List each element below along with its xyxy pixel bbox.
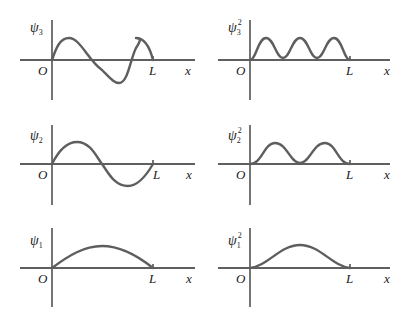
x-label: x <box>185 271 192 286</box>
psi2-squared-label: ψ22 <box>228 126 242 145</box>
l-label: L <box>345 167 353 182</box>
psi1-squared-label: ψ12 <box>228 231 242 250</box>
x-label: x <box>383 167 390 182</box>
origin-label: O <box>236 167 246 182</box>
psi3-squared-curve <box>250 38 350 60</box>
psi2-squared-curve <box>250 143 350 164</box>
panel-psi2-squared: ψ22 O L x <box>218 125 390 205</box>
psi3-label: ψ3 <box>30 20 43 37</box>
panel-psi3-squared: ψ32 O L x <box>218 18 390 100</box>
origin-label: O <box>236 271 246 286</box>
wavefunction-diagram: ψ3 O L x ψ32 O L x ψ2 O L x ψ22 O L x <box>0 0 411 326</box>
x-label: x <box>184 63 191 78</box>
l-label: L <box>148 63 156 78</box>
x-label: x <box>383 271 390 286</box>
psi2-label: ψ2 <box>30 128 43 145</box>
psi1-squared-curve <box>250 245 350 268</box>
psi3-squared-label: ψ32 <box>228 18 242 37</box>
panel-psi1: ψ1 O L x <box>20 228 195 307</box>
panel-psi3: ψ3 O L x <box>20 20 195 100</box>
x-label: x <box>383 63 390 78</box>
l-label: L <box>345 63 353 78</box>
panel-psi1-squared: ψ12 O L x <box>218 228 390 307</box>
origin-label: O <box>38 167 48 182</box>
panel-psi2: ψ2 O L x <box>20 125 195 205</box>
psi1-curve <box>52 246 153 268</box>
origin-label: O <box>38 271 48 286</box>
l-label: L <box>148 271 156 286</box>
x-label: x <box>185 167 192 182</box>
l-label: L <box>345 271 353 286</box>
origin-label: O <box>38 63 48 78</box>
psi1-label: ψ1 <box>30 233 43 250</box>
origin-label: O <box>236 63 246 78</box>
l-label: L <box>152 167 160 182</box>
